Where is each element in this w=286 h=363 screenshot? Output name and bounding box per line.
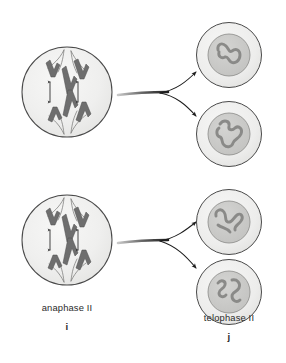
telophase-cell-1 (197, 23, 262, 88)
anaphase-cell-bottom (22, 195, 112, 285)
nucleus (208, 34, 250, 76)
telophase-cell-3 (197, 190, 262, 255)
transition-arrow-lower (160, 241, 196, 268)
telophase-panel-letter: j (173, 331, 285, 342)
transition-arrow-upper (160, 222, 196, 241)
nucleus (208, 113, 250, 155)
transition-arrow-lower (160, 93, 196, 116)
telophase-phase-label: telophase II (173, 313, 285, 324)
meiosis-diagram-figure: anaphase II i telophase II j (0, 0, 286, 363)
transition-arrows-bottom (118, 222, 196, 268)
telophase-cell-2 (197, 102, 262, 167)
anaphase-panel-letter: i (11, 321, 123, 332)
anaphase-phase-label: anaphase II (11, 303, 123, 314)
transition-arrows-top (118, 72, 196, 116)
nucleus (208, 271, 250, 313)
anaphase-cell-top (22, 47, 112, 137)
transition-arrow-upper (160, 72, 196, 93)
